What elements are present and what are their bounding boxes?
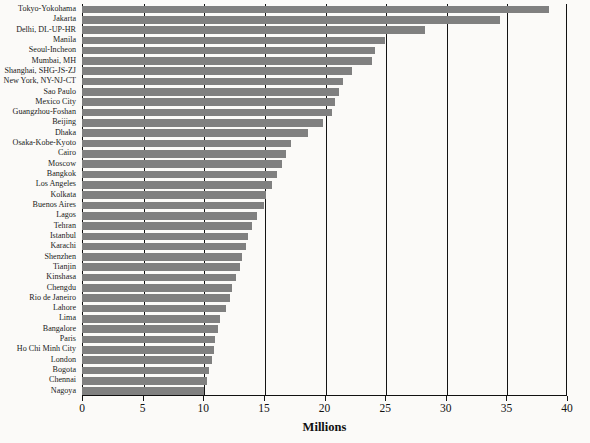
- y-axis-category-labels: Tokyo-YokohamaJakartaDelhi, DL-UP-HRMani…: [0, 4, 79, 396]
- bar: [82, 222, 252, 230]
- bar: [82, 294, 230, 302]
- bar: [82, 336, 215, 344]
- x-axis-tick-label: 0: [79, 402, 85, 414]
- y-axis-tick-label: Tehran: [54, 221, 76, 231]
- bar-row: [82, 303, 567, 313]
- bar: [82, 191, 266, 199]
- bar: [82, 160, 282, 168]
- y-axis-tick-label: Sao Paulo: [43, 87, 76, 97]
- y-axis-tick-label: Dhaka: [55, 128, 76, 138]
- bar: [82, 181, 272, 189]
- bar-row: [82, 76, 567, 86]
- y-axis-tick-label: Mumbai, MH: [31, 56, 76, 66]
- bar: [82, 274, 236, 282]
- y-axis-tick-label: Istanbul: [50, 231, 76, 241]
- y-axis-tick-label: Mexico City: [35, 97, 76, 107]
- bar-row: [82, 14, 567, 24]
- bar: [82, 233, 248, 241]
- bar: [82, 98, 335, 106]
- y-axis-tick-label: Seoul-Incheon: [29, 45, 76, 55]
- bar: [82, 305, 226, 313]
- y-axis-tick-label: Manila: [53, 35, 76, 45]
- bar-row: [82, 262, 567, 272]
- bar-row: [82, 365, 567, 375]
- bar-series: [82, 4, 567, 396]
- bar: [82, 367, 209, 375]
- x-axis-tick-10: [203, 396, 204, 401]
- y-axis-tick-label: Tokyo-Yokohama: [18, 4, 76, 14]
- x-axis: 0510152025303540: [82, 396, 567, 416]
- y-axis-tick-label: Lahore: [53, 303, 76, 313]
- bar: [82, 284, 232, 292]
- bar-row: [82, 179, 567, 189]
- bar: [82, 109, 332, 117]
- bar-row: [82, 210, 567, 220]
- x-axis-tick-5: [143, 396, 144, 401]
- x-axis-tick-label: 5: [140, 402, 146, 414]
- bar: [82, 325, 218, 333]
- bar-row: [82, 241, 567, 251]
- bar: [82, 67, 352, 75]
- bar-row: [82, 200, 567, 210]
- y-axis-tick-label: Nagoya: [51, 386, 76, 396]
- bar-row: [82, 138, 567, 148]
- bar-row: [82, 324, 567, 334]
- y-axis-tick-label: Chengdu: [47, 283, 76, 293]
- bar-row: [82, 334, 567, 344]
- bar: [82, 202, 264, 210]
- bar: [82, 47, 375, 55]
- bar: [82, 253, 242, 261]
- bar-row: [82, 4, 567, 14]
- bar-row: [82, 386, 567, 396]
- y-axis-tick-label: Guangzhou-Foshan: [13, 107, 76, 117]
- bar: [82, 387, 204, 395]
- x-axis-tick-0: [82, 396, 83, 401]
- x-axis-tick-25: [385, 396, 386, 401]
- x-axis-title: Millions: [82, 420, 567, 435]
- bar-row: [82, 221, 567, 231]
- y-axis-tick-label: Bangkok: [47, 169, 76, 179]
- population-bar-chart: Tokyo-YokohamaJakartaDelhi, DL-UP-HRMani…: [0, 0, 590, 443]
- bar-row: [82, 148, 567, 158]
- bar: [82, 263, 240, 271]
- bar: [82, 26, 425, 34]
- y-axis-tick-label: Moscow: [48, 159, 76, 169]
- y-axis-tick-label: Beijing: [52, 117, 76, 127]
- bar-row: [82, 313, 567, 323]
- bar-row: [82, 128, 567, 138]
- y-axis-tick-label: New York, NY-NJ-CT: [4, 76, 76, 86]
- bar: [82, 243, 246, 251]
- y-axis-tick-label: Lagos: [56, 210, 76, 220]
- y-axis-tick-label: Kolkata: [50, 190, 76, 200]
- y-axis-tick-label: Jakarta: [53, 14, 76, 24]
- bar-row: [82, 87, 567, 97]
- y-axis-tick-label: Tianjin: [53, 262, 76, 272]
- bar-row: [82, 252, 567, 262]
- bar: [82, 356, 212, 364]
- bar-row: [82, 344, 567, 354]
- bar-row: [82, 169, 567, 179]
- bar: [82, 6, 549, 14]
- x-axis-tick-35: [506, 396, 507, 401]
- bar-row: [82, 159, 567, 169]
- x-axis-tick-label: 15: [258, 402, 270, 414]
- bar-row: [82, 56, 567, 66]
- bar-row: [82, 45, 567, 55]
- x-axis-tick-label: 35: [501, 402, 513, 414]
- y-axis-tick-label: Rio de Janeiro: [29, 293, 76, 303]
- y-axis-tick-label: Kinshasa: [46, 272, 76, 282]
- y-axis-tick-label: Bangalore: [43, 324, 76, 334]
- bar: [82, 140, 291, 148]
- bar-row: [82, 293, 567, 303]
- y-axis-tick-label: Bogota: [53, 365, 76, 375]
- bar: [82, 88, 339, 96]
- x-axis-tick-30: [446, 396, 447, 401]
- x-axis-tick-label: 20: [319, 402, 331, 414]
- y-axis-tick-label: Chennai: [49, 375, 76, 385]
- x-axis-tick-label: 25: [379, 402, 391, 414]
- bar: [82, 119, 323, 127]
- bar: [82, 150, 286, 158]
- x-axis-tick-label: 10: [198, 402, 210, 414]
- y-axis-tick-label: Paris: [60, 334, 76, 344]
- y-axis-tick-label: Cairo: [58, 148, 76, 158]
